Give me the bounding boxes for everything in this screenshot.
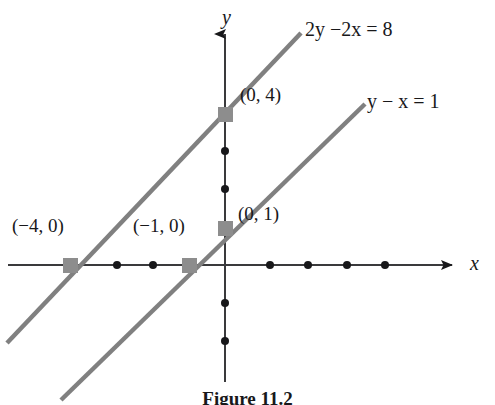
point-label-0-1: (0, 1) [238,203,279,225]
x-tick-dot [266,261,274,269]
point-label-0-4: (0, 4) [240,84,281,106]
marker-point-0-1 [218,221,233,236]
line-y-x-1 [61,104,365,400]
y-tick-dot [221,147,229,155]
x-tick-dot [149,261,157,269]
x-tick-dot [304,261,312,269]
point-label-neg1-0: (−1, 0) [133,215,185,237]
marker-point-neg1-0 [182,258,197,273]
figure-caption: Figure 11.2 [0,388,495,405]
marker-point-0-4 [218,107,233,122]
axis-lines [8,34,452,382]
line-2y-2x-8 [7,33,301,343]
marker-point-neg4-0 [63,258,78,273]
y-tick-dot [221,299,229,307]
equation-label-line-1: 2y −2x = 8 [305,18,393,41]
equation-label-line-2: y − x = 1 [367,90,440,113]
y-tick-dot [221,337,229,345]
figure-container: y x 2y −2x = 8 y − x = 1 (0, 4) (0, 1) (… [0,0,495,405]
x-tick-dot [343,261,351,269]
point-label-neg4-0: (−4, 0) [12,215,64,237]
x-tick-dot [113,261,121,269]
y-axis-label: y [222,6,231,29]
x-tick-dot [381,261,389,269]
y-tick-dot [221,185,229,193]
x-axis-label: x [470,252,479,275]
